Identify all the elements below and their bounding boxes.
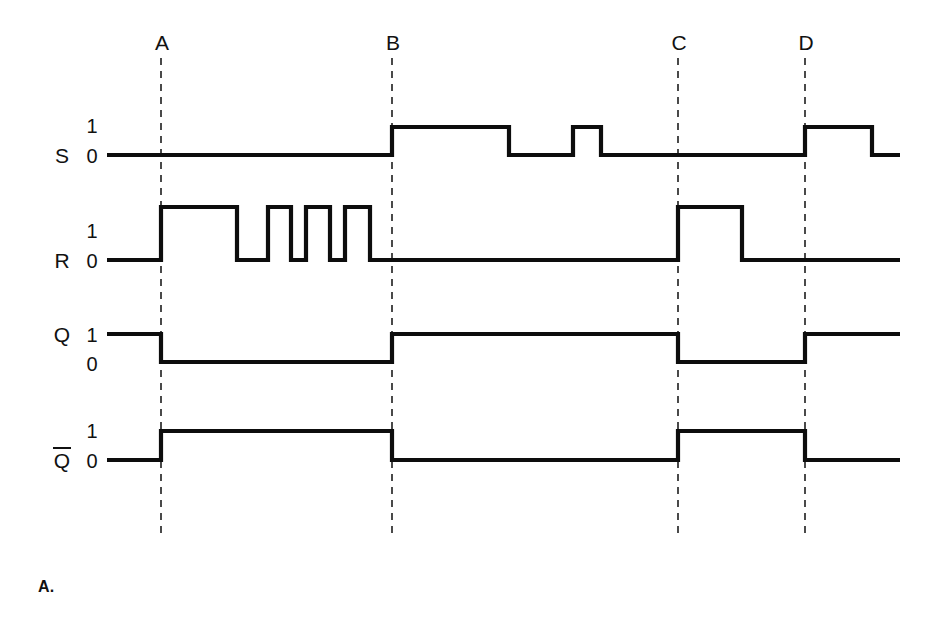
marker-labels-group: ABCD	[155, 31, 814, 54]
level-label-high-r: 1	[86, 220, 97, 242]
level-label-high-q: 1	[86, 324, 97, 346]
level-labels-group: 10101010	[86, 115, 97, 472]
signal-names-group: SRQQ	[53, 144, 71, 472]
signal-name-r: R	[54, 249, 69, 272]
figure-caption: A.	[38, 578, 54, 596]
level-label-low-q: 0	[86, 353, 97, 375]
waveform-q	[107, 334, 900, 362]
signal-name-qbar: Q	[54, 449, 70, 472]
waveform-s	[107, 127, 900, 155]
signal-name-s: S	[55, 144, 69, 167]
marker-label-b: B	[386, 31, 400, 54]
waveform-r	[107, 207, 900, 260]
level-label-high-qbar: 1	[86, 420, 97, 442]
marker-label-a: A	[155, 31, 169, 54]
level-label-high-s: 1	[86, 115, 97, 137]
signal-name-q: Q	[54, 323, 70, 346]
marker-lines-group	[161, 58, 805, 536]
level-label-low-s: 0	[86, 145, 97, 167]
timing-diagram-figure: ABCD SRQQ 10101010 A.	[0, 0, 938, 630]
waveforms-group	[107, 127, 900, 460]
waveform-qbar	[107, 431, 900, 460]
marker-label-c: C	[671, 31, 686, 54]
level-label-low-r: 0	[86, 250, 97, 272]
level-label-low-qbar: 0	[86, 450, 97, 472]
timing-diagram-canvas: ABCD SRQQ 10101010	[0, 0, 938, 630]
marker-label-d: D	[798, 31, 813, 54]
